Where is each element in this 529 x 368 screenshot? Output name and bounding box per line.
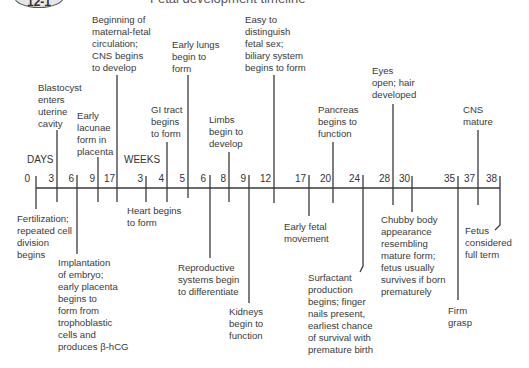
days-label: DAYS	[27, 154, 54, 166]
tick-week-6: 6	[190, 173, 206, 185]
event-limbs: Limbs begin to develop	[209, 114, 243, 150]
tick-week-24: 24	[344, 173, 360, 185]
tick-week-38: 38	[481, 173, 497, 185]
event-implantation: Implantation of embryo; early placenta b…	[58, 257, 129, 353]
tick-week-8: 8	[210, 173, 226, 185]
event-cns-mature: CNS mature	[463, 104, 493, 128]
event-reproductive: Reproductive systems begin to differenti…	[178, 262, 239, 298]
event-chubby: Chubby body appearance resembling mature…	[381, 214, 446, 298]
event-full-term: Fetus considered full term	[465, 225, 512, 261]
tick-week-17: 17	[290, 173, 306, 185]
tick-week-3: 3	[127, 173, 143, 185]
tick-day-0: 0	[16, 173, 30, 185]
event-blastocyst: Blastocyst enters uterine cavity	[38, 82, 82, 130]
event-fertilization: Fertilization; repeated cell division be…	[17, 213, 72, 261]
tick-week-9: 9	[230, 173, 246, 185]
event-heart: Heart begins to form	[127, 205, 181, 229]
tick-week-4: 4	[148, 173, 164, 185]
tick-week-20: 20	[315, 173, 331, 185]
tick-week-30: 30	[394, 173, 410, 185]
event-gi-tract: GI tract begins to form	[151, 104, 182, 140]
tick-week-28: 28	[374, 173, 390, 185]
tick-week-5: 5	[169, 173, 185, 185]
event-maternal-fetal: Beginning of maternal-fetal circulation;…	[92, 14, 151, 74]
event-firm-grasp: Firm grasp	[448, 305, 472, 329]
event-pancreas: Pancreas begins to function	[318, 104, 359, 140]
tick-week-35: 35	[439, 173, 455, 185]
tick-day-17: 17	[99, 173, 115, 185]
event-surfactant: Surfactant production begins; finger nai…	[308, 272, 373, 356]
event-kidneys: Kidneys begin to function	[229, 306, 263, 342]
tick-day-6: 6	[58, 173, 74, 185]
event-early-lungs: Early lungs begin to form	[172, 39, 219, 75]
weeks-label: WEEKS	[124, 154, 160, 166]
connector-surfactant	[360, 175, 363, 272]
tick-day-9: 9	[79, 173, 95, 185]
event-eyes: Eyes open; hair developed	[372, 65, 416, 101]
event-fetal-movement: Early fetal movement	[284, 221, 329, 245]
tick-week-37: 37	[459, 173, 475, 185]
event-lacunae: Early lacunae form in placenta	[77, 110, 113, 158]
event-fetal-sex: Easy to distinguish fetal sex; biliary s…	[245, 14, 306, 74]
tick-week-12: 12	[255, 173, 271, 185]
tick-day-3: 3	[38, 173, 54, 185]
